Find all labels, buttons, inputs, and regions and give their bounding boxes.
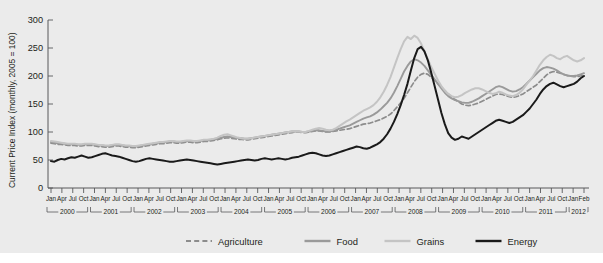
x-tick-label: Oct xyxy=(514,195,524,202)
year-label: 2000 xyxy=(60,208,75,215)
x-tick-label: Feb xyxy=(579,195,590,202)
y-tick-marks xyxy=(48,20,53,188)
price-index-line-chart: Current Price Index (monthly, 2005 = 100… xyxy=(0,0,603,263)
x-tick-label: Apr xyxy=(318,195,328,203)
x-tick-label: Oct xyxy=(122,195,132,202)
y-tick-label: 50 xyxy=(33,155,43,165)
year-label: 2002 xyxy=(147,208,162,215)
y-axis-title-text: Current Price Index (monthly, 2005 = 100… xyxy=(7,32,17,188)
x-tick-label: Jul xyxy=(69,195,77,202)
year-label: 2012 xyxy=(571,208,586,215)
series-line-food xyxy=(51,59,584,146)
x-tick-label: Jul xyxy=(373,195,381,202)
x-tick-label: Oct xyxy=(427,195,437,202)
y-tick-label: 250 xyxy=(28,43,43,53)
x-tick-label: Oct xyxy=(470,195,480,202)
x-tick-label: Jan xyxy=(133,195,144,202)
x-tick-label: Jul xyxy=(156,195,164,202)
y-tick-label: 300 xyxy=(28,15,43,25)
x-tick-label: Jul xyxy=(504,195,512,202)
x-tick-label: Oct xyxy=(166,195,176,202)
year-label: 2009 xyxy=(452,208,467,215)
x-tick-label: Oct xyxy=(557,195,567,202)
series-lines xyxy=(51,36,584,165)
x-tick-label: Apr xyxy=(275,195,285,203)
x-tick-label: Apr xyxy=(57,195,67,203)
x-tick-label: Jul xyxy=(547,195,555,202)
x-tick-label: Jan xyxy=(525,195,536,202)
x-tick-label: Apr xyxy=(536,195,546,203)
axis-frame xyxy=(48,20,589,188)
x-tick-label: Apr xyxy=(492,195,502,203)
x-tick-label: Jan xyxy=(220,195,231,202)
year-label: 2007 xyxy=(365,208,380,215)
x-tick-marks xyxy=(51,188,584,193)
x-tick-label: Jan xyxy=(89,195,100,202)
x-tick-label: Apr xyxy=(405,195,415,203)
x-tick-label: Oct xyxy=(209,195,219,202)
year-label: 2011 xyxy=(539,208,554,215)
x-tick-label: Apr xyxy=(362,195,372,203)
legend-label-food: Food xyxy=(337,236,358,247)
legend-label-agriculture: Agriculture xyxy=(218,236,263,247)
year-label: 2004 xyxy=(234,208,249,215)
x-tick-label: Jan xyxy=(176,195,187,202)
x-tick-label: Jul xyxy=(243,195,251,202)
x-tick-label: Apr xyxy=(188,195,198,203)
x-tick-label: Jan xyxy=(46,195,57,202)
x-tick-label: Oct xyxy=(253,195,263,202)
year-label: 2006 xyxy=(321,208,336,215)
y-axis-title: Current Price Index (monthly, 2005 = 100… xyxy=(7,32,17,188)
legend-label-grains: Grains xyxy=(417,236,445,247)
x-tick-label: Jul xyxy=(460,195,468,202)
y-tick-label: 0 xyxy=(38,183,43,193)
chart-figure: Current Price Index (monthly, 2005 = 100… xyxy=(0,0,603,263)
year-label: 2005 xyxy=(278,208,293,215)
x-tick-label: Apr xyxy=(449,195,459,203)
x-tick-label: Apr xyxy=(231,195,241,203)
x-tick-label: Jan xyxy=(438,195,449,202)
x-tick-label: Jan xyxy=(263,195,274,202)
x-tick-label: Jan xyxy=(394,195,405,202)
x-tick-label: Apr xyxy=(100,195,110,203)
y-tick-label: 150 xyxy=(28,99,43,109)
x-tick-label: Jul xyxy=(417,195,425,202)
x-tick-label: Jan xyxy=(568,195,579,202)
y-tick-label: 100 xyxy=(28,127,43,137)
year-label: 2008 xyxy=(408,208,423,215)
x-tick-label: Jan xyxy=(481,195,492,202)
legend-label-energy: Energy xyxy=(508,236,538,247)
y-tick-labels: 050100150200250300 xyxy=(28,15,43,193)
series-line-agriculture xyxy=(51,72,584,148)
x-tick-label: Oct xyxy=(340,195,350,202)
year-label: 2003 xyxy=(191,208,206,215)
x-tick-label: Jul xyxy=(112,195,120,202)
x-tick-label: Jan xyxy=(307,195,318,202)
x-tick-label: Oct xyxy=(383,195,393,202)
x-tick-label: Jan xyxy=(350,195,361,202)
year-label: 2010 xyxy=(495,208,510,215)
y-tick-label: 200 xyxy=(28,71,43,81)
x-tick-label: Jul xyxy=(199,195,207,202)
year-label: 2001 xyxy=(103,208,118,215)
x-tick-label: Oct xyxy=(296,195,306,202)
x-tick-label: Jul xyxy=(286,195,294,202)
x-tick-label: Apr xyxy=(144,195,154,203)
x-tick-label: Oct xyxy=(79,195,89,202)
x-tick-label: Jul xyxy=(330,195,338,202)
x-tick-labels: JanAprJulOctJanAprJulOctJanAprJulOctJanA… xyxy=(46,195,590,203)
chart-legend: AgricultureFoodGrainsEnergy xyxy=(186,236,538,247)
